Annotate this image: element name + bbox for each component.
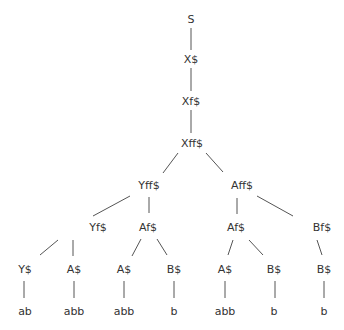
tree-node: Af$: [227, 222, 245, 233]
tree-node: abb: [64, 306, 85, 317]
tree-edge: [206, 153, 223, 172]
tree-edge: [249, 240, 263, 255]
tree-node: ab: [18, 306, 32, 317]
tree-node: A$: [218, 264, 233, 275]
tree-edge: [257, 196, 293, 216]
tree-node: b: [171, 306, 178, 317]
tree-node: B$: [267, 264, 282, 275]
tree-edge: [317, 240, 322, 255]
tree-node: S: [188, 14, 195, 25]
tree-node: Aff$: [231, 180, 253, 191]
tree-node: B$: [167, 264, 182, 275]
tree-node: b: [321, 306, 328, 317]
tree-node: Yff$: [138, 180, 159, 191]
tree-edge: [132, 239, 141, 256]
tree-node: Af$: [139, 222, 157, 233]
tree-edge: [163, 153, 178, 173]
tree-edges: [0, 0, 344, 330]
tree-node: abb: [114, 306, 135, 317]
tree-node: Y$: [18, 264, 32, 275]
tree-node: b: [271, 306, 278, 317]
tree-node: Yf$: [89, 222, 107, 233]
tree-node: X$: [184, 54, 199, 65]
tree-edge: [228, 240, 233, 255]
tree-node: A$: [117, 264, 132, 275]
tree-node: Bf$: [313, 222, 331, 233]
tree-node: abb: [215, 306, 236, 317]
tree-node: Xf$: [182, 96, 200, 107]
tree-edge: [40, 240, 58, 255]
tree-edge: [93, 196, 130, 216]
tree-node: A$: [67, 264, 82, 275]
tree-node: B$: [317, 264, 332, 275]
tree-node: Xff$: [181, 138, 203, 149]
tree-edge: [157, 239, 167, 255]
